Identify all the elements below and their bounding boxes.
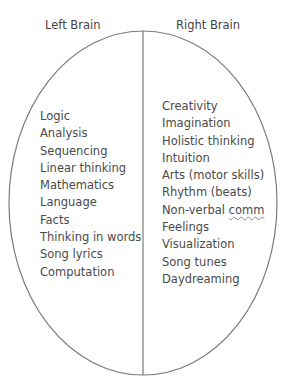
right-item: Arts (motor skills) xyxy=(162,167,264,184)
left-item: Mathematics xyxy=(40,177,141,194)
left-item: Thinking in words xyxy=(40,229,141,246)
left-item: Computation xyxy=(40,264,141,281)
right-item: Non-verbal comm xyxy=(162,202,264,219)
spellcheck-underline: comm xyxy=(229,203,265,217)
right-item: Feelings xyxy=(162,219,264,236)
left-item: Analysis xyxy=(40,125,141,142)
left-brain-title: Left Brain xyxy=(45,18,100,32)
right-item: Visualization xyxy=(162,236,264,253)
left-item: Linear thinking xyxy=(40,160,141,177)
left-item: Sequencing xyxy=(40,143,141,160)
left-item: Facts xyxy=(40,212,141,229)
left-item: Song lyrics xyxy=(40,246,141,263)
right-item: Creativity xyxy=(162,98,264,115)
right-brain-list: Creativity Imagination Holistic thinking… xyxy=(162,98,264,288)
right-item-text: Non-verbal comm xyxy=(162,203,264,217)
left-item: Logic xyxy=(40,108,141,125)
right-item: Imagination xyxy=(162,115,264,132)
right-item: Intuition xyxy=(162,150,264,167)
right-item: Rhythm (beats) xyxy=(162,184,264,201)
brain-diagram: Left Brain Right Brain Logic Analysis Se… xyxy=(0,0,286,389)
right-item: Holistic thinking xyxy=(162,133,264,150)
right-brain-title: Right Brain xyxy=(176,18,240,32)
right-item: Song tunes xyxy=(162,254,264,271)
left-brain-list: Logic Analysis Sequencing Linear thinkin… xyxy=(40,108,141,281)
right-item: Daydreaming xyxy=(162,271,264,288)
left-item: Language xyxy=(40,194,141,211)
